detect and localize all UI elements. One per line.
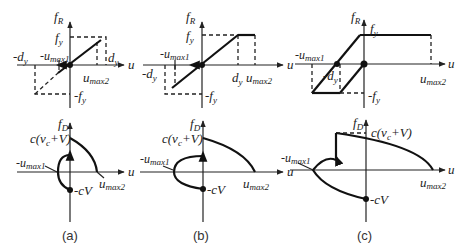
svg-text:u: u	[287, 164, 294, 179]
svg-text:c(vc+V): c(vc+V)	[30, 131, 71, 148]
svg-text:fR: fR	[186, 9, 196, 26]
neg-cv-dot	[200, 186, 206, 192]
panel-b-damping-force: fD u c(vc+V) -umax1 umax2 -cV	[140, 116, 294, 222]
direction-arrow	[336, 157, 338, 162]
svg-text:fy: fy	[186, 28, 194, 45]
panel-a-force-displacement: fR fy u -dy -umax1 dy umax2 -fy	[13, 9, 135, 108]
svg-text:fy: fy	[370, 21, 378, 38]
svg-text:u: u	[448, 162, 455, 177]
svg-text:-umax1: -umax1	[140, 152, 170, 167]
svg-text:fD: fD	[353, 115, 364, 132]
panel-b-force-displacement: fR fy u -umax1 -dy dy umax2 -fy	[142, 9, 294, 108]
svg-text:c(vc+V): c(vc+V)	[162, 131, 203, 148]
unloading-curve	[313, 159, 366, 199]
svg-text:-umax1: -umax1	[160, 47, 190, 62]
caption-a: (a)	[62, 228, 78, 243]
panel-a-damping-force: fD u c(vc+V) -umax1 umax2 -cV	[16, 116, 135, 222]
svg-text:-dy: -dy	[323, 68, 338, 85]
svg-text:-dy: -dy	[142, 66, 157, 83]
svg-text:umax2: umax2	[420, 71, 446, 87]
svg-text:-umax1: -umax1	[295, 48, 325, 63]
svg-text:u: u	[128, 164, 135, 179]
origin-dot	[199, 62, 205, 68]
origin-dot	[361, 61, 368, 68]
svg-text:-umax1: -umax1	[40, 49, 70, 64]
neg-umax1-dot	[334, 61, 340, 67]
leader-umax1	[45, 166, 57, 172]
panel-c-force-displacement: fR fy u -umax1 -dy umax2 -fy	[295, 9, 455, 108]
svg-text:u: u	[448, 56, 455, 71]
svg-text:umax2: umax2	[420, 175, 446, 191]
svg-text:-cV: -cV	[370, 192, 390, 207]
svg-text:fR: fR	[351, 9, 361, 26]
svg-text:umax2: umax2	[246, 70, 272, 86]
svg-text:-fy: -fy	[205, 88, 217, 105]
svg-text:-cV: -cV	[74, 183, 94, 198]
svg-text:dy: dy	[108, 50, 119, 67]
svg-text:fy: fy	[55, 30, 63, 47]
unloading-dash	[35, 73, 58, 94]
unloading-path	[340, 64, 364, 93]
svg-text:dy: dy	[232, 70, 243, 87]
loading-curve	[203, 138, 255, 172]
caption-b: (b)	[193, 228, 209, 243]
svg-text:umax2: umax2	[83, 70, 109, 86]
panel-c-damping-force: fD u c(vc+V) -umax1 umax2 -cV	[281, 115, 455, 222]
svg-text:c(vc+V): c(vc+V)	[371, 125, 412, 142]
svg-text:u: u	[128, 57, 135, 72]
svg-text:-fy: -fy	[368, 88, 380, 105]
loading-curve	[70, 138, 97, 172]
svg-text:umax2: umax2	[99, 176, 125, 192]
svg-text:-dy: -dy	[13, 49, 28, 66]
svg-text:umax2: umax2	[243, 176, 269, 192]
svg-text:-umax1: -umax1	[16, 156, 46, 171]
neg-cv-dot	[67, 187, 73, 193]
svg-text:-cV: -cV	[207, 182, 227, 197]
neg-cv-dot	[363, 196, 369, 202]
caption-c: (c)	[357, 228, 372, 243]
neg-yield-guide	[35, 65, 70, 94]
svg-text:u: u	[287, 57, 294, 72]
svg-text:-fy: -fy	[74, 88, 86, 105]
hysteresis-diagram: fR fy u -dy -umax1 dy umax2 -fy fD u c(v…	[0, 0, 463, 252]
svg-text:-umax1: -umax1	[281, 151, 311, 166]
svg-text:fR: fR	[54, 9, 64, 26]
